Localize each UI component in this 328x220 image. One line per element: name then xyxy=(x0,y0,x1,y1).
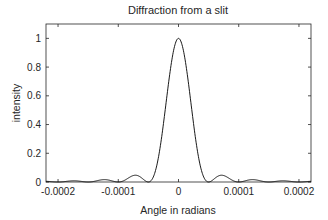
plot-area xyxy=(46,24,311,182)
y-tick-label: 0.8 xyxy=(27,62,41,73)
x-tick-label: 0.0001 xyxy=(223,186,254,197)
y-tick-label: 1 xyxy=(35,33,41,44)
x-tick-label: -0.0001 xyxy=(101,186,135,197)
y-tick-label: 0.2 xyxy=(27,148,41,159)
chart: Diffraction from a slit 00.20.40.60.81 -… xyxy=(0,0,328,220)
y-tick-label: 0.6 xyxy=(27,90,41,101)
x-axis-label: Angle in radians xyxy=(140,204,215,216)
x-tick-label: 0.0002 xyxy=(284,186,315,197)
y-axis-label: intensity xyxy=(10,83,22,122)
x-tick-label: 0 xyxy=(176,186,182,197)
chart-title: Diffraction from a slit xyxy=(128,4,228,16)
x-tick-label: -0.0002 xyxy=(41,186,75,197)
y-tick-label: 0.4 xyxy=(27,119,41,130)
